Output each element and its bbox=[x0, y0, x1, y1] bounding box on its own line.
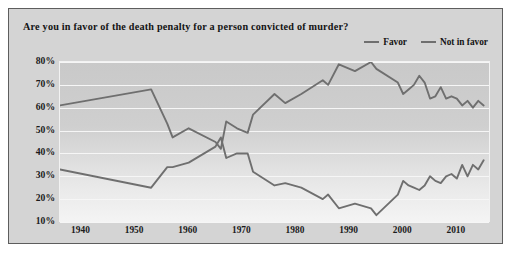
y-axis-tick: 30% bbox=[23, 169, 55, 180]
x-axis-tick: 1960 bbox=[178, 225, 197, 235]
plot-area bbox=[59, 61, 490, 222]
line-series-favor bbox=[60, 62, 484, 149]
chart-panel: Are you in favor of the death penalty fo… bbox=[8, 8, 503, 244]
series-lines bbox=[60, 62, 489, 222]
x-axis-tick: 1990 bbox=[339, 225, 358, 235]
x-axis-tick: 1950 bbox=[125, 225, 144, 235]
x-axis-tick: 1980 bbox=[286, 225, 305, 235]
legend-label-not-in-favor: Not in favor bbox=[440, 37, 488, 47]
y-axis-tick: 50% bbox=[23, 124, 55, 135]
chart-legend: Favor Not in favor bbox=[364, 37, 488, 47]
x-axis-tick: 1940 bbox=[71, 225, 90, 235]
y-axis-tick: 20% bbox=[23, 192, 55, 203]
x-axis-tick: 2000 bbox=[393, 225, 412, 235]
legend-item-not-in-favor[interactable]: Not in favor bbox=[421, 37, 488, 47]
x-axis-tick: 1970 bbox=[232, 225, 251, 235]
legend-swatch-not-in-favor bbox=[421, 41, 436, 43]
y-axis-tick: 80% bbox=[23, 55, 55, 66]
y-axis-tick: 40% bbox=[23, 146, 55, 157]
gridline bbox=[60, 222, 489, 223]
y-axis-tick: 70% bbox=[23, 78, 55, 89]
line-series-not-in-favor bbox=[60, 137, 484, 215]
x-axis-tick: 2010 bbox=[446, 225, 465, 235]
legend-swatch-favor bbox=[364, 41, 379, 43]
y-axis-tick: 60% bbox=[23, 101, 55, 112]
legend-label-favor: Favor bbox=[383, 37, 407, 47]
chart-title: Are you in favor of the death penalty fo… bbox=[23, 21, 348, 32]
legend-item-favor[interactable]: Favor bbox=[364, 37, 407, 47]
y-axis-tick: 10% bbox=[23, 215, 55, 226]
